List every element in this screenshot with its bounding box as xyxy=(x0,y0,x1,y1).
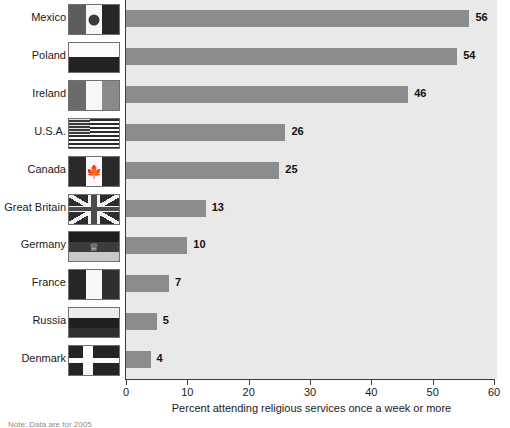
chart-row: Denmark4 xyxy=(0,341,510,379)
flag-germany-icon: ♕ xyxy=(68,231,120,262)
bar xyxy=(126,124,285,141)
chart-footnote: Note: Data are for 2005 xyxy=(8,420,92,428)
bar xyxy=(126,313,157,330)
chart-row: Russia5 xyxy=(0,303,510,341)
bar-value-label: 4 xyxy=(157,352,163,364)
x-tick-mark xyxy=(249,380,250,385)
x-tick-mark xyxy=(310,380,311,385)
bar-value-label: 13 xyxy=(212,201,224,213)
chart-row: France7 xyxy=(0,265,510,303)
flag-russia-icon xyxy=(68,307,120,338)
category-label-u-s-a: U.S.A. xyxy=(34,125,66,137)
bar xyxy=(126,351,151,368)
germany-eagle-icon: ♕ xyxy=(89,241,99,252)
chart-row: Mexico56 xyxy=(0,0,510,38)
bar xyxy=(126,48,457,65)
bar-value-label: 54 xyxy=(463,49,475,61)
bar-value-label: 46 xyxy=(414,87,426,99)
category-label-germany: Germany xyxy=(21,238,66,250)
chart-row: Great Britain13 xyxy=(0,190,510,228)
x-tick-label: 30 xyxy=(304,386,316,398)
chart-row: U.S.A.26 xyxy=(0,114,510,152)
bar xyxy=(126,162,279,179)
chart-row: Ireland46 xyxy=(0,76,510,114)
x-tick-mark xyxy=(494,380,495,385)
bar xyxy=(126,86,408,103)
category-label-canada: Canada xyxy=(27,163,66,175)
category-label-poland: Poland xyxy=(32,49,66,61)
flag-ireland-icon xyxy=(68,80,120,111)
x-tick-mark xyxy=(371,380,372,385)
bar-value-label: 7 xyxy=(175,276,181,288)
flag-canada-icon: 🍁 xyxy=(68,156,120,187)
x-tick-mark xyxy=(126,380,127,385)
mexico-emblem-icon xyxy=(89,14,100,25)
category-label-france: France xyxy=(32,276,66,288)
x-tick-mark xyxy=(433,380,434,385)
bar-value-label: 5 xyxy=(163,314,169,326)
bar-value-label: 26 xyxy=(291,125,303,137)
bar-value-label: 10 xyxy=(193,238,205,250)
flag-france-icon xyxy=(68,269,120,300)
flag-denmark-icon xyxy=(68,345,120,376)
bar xyxy=(126,237,187,254)
chart-row: Canada🍁25 xyxy=(0,152,510,190)
flag-great-britain-icon xyxy=(68,194,120,225)
flag-usa-icon xyxy=(68,118,120,149)
x-tick-label: 50 xyxy=(427,386,439,398)
bar xyxy=(126,200,206,217)
chart-row: Poland54 xyxy=(0,38,510,76)
category-label-great-britain: Great Britain xyxy=(4,201,66,213)
category-label-mexico: Mexico xyxy=(31,11,66,23)
bar xyxy=(126,275,169,292)
chart-row: Germany♕10 xyxy=(0,227,510,265)
flag-mexico-icon xyxy=(68,4,120,35)
category-label-russia: Russia xyxy=(32,314,66,326)
x-tick-label: 20 xyxy=(243,386,255,398)
x-tick-label: 0 xyxy=(123,386,129,398)
bar-value-label: 25 xyxy=(285,163,297,175)
x-axis-title: Percent attending religious services onc… xyxy=(126,402,497,414)
flag-poland-icon xyxy=(68,42,120,73)
bar-chart: Mexico56Poland54Ireland46U.S.A.26Canada🍁… xyxy=(0,0,510,428)
category-label-denmark: Denmark xyxy=(21,352,66,364)
x-tick-label: 10 xyxy=(181,386,193,398)
x-tick-mark xyxy=(187,380,188,385)
x-tick-label: 60 xyxy=(488,386,500,398)
maple-leaf-icon: 🍁 xyxy=(86,165,102,178)
bar xyxy=(126,10,469,27)
x-tick-label: 40 xyxy=(365,386,377,398)
bar-value-label: 56 xyxy=(475,11,487,23)
category-label-ireland: Ireland xyxy=(32,87,66,99)
